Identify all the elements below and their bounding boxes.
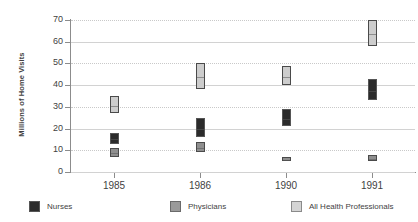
y-axis-tick	[65, 172, 70, 173]
x-axis-tick-label: 1986	[170, 180, 230, 191]
y-axis-tick	[65, 20, 70, 21]
range-marker-midline	[369, 91, 376, 92]
x-axis-tick	[372, 173, 373, 178]
y-axis-tick-label: 50	[37, 58, 63, 67]
plot-area	[71, 20, 415, 172]
x-axis-tick	[114, 173, 115, 178]
y-axis-tick-label: 30	[37, 102, 63, 111]
x-axis-tick-label: 1991	[342, 180, 402, 191]
gridline	[71, 63, 415, 64]
range-marker-midline	[283, 77, 290, 78]
range-marker	[110, 133, 119, 144]
legend-item[interactable]: Nurses	[29, 199, 72, 213]
gridline	[71, 20, 415, 21]
range-marker-midline	[197, 77, 204, 78]
y-axis-tick-label: 20	[37, 124, 63, 133]
range-marker-midline	[283, 119, 290, 120]
gridline	[71, 42, 415, 43]
range-marker	[196, 118, 205, 138]
legend-item[interactable]: All Health Professionals	[291, 199, 393, 213]
x-axis-tick-label: 1990	[256, 180, 316, 191]
legend-item[interactable]: Physicians	[170, 199, 226, 213]
y-axis-tick-label: 0	[37, 167, 63, 176]
y-axis-tick	[65, 85, 70, 86]
legend-swatch-all-health-professionals	[291, 201, 302, 212]
y-axis-tick-label: 40	[37, 80, 63, 89]
gridline	[71, 107, 415, 108]
y-axis-tick	[65, 107, 70, 108]
range-marker-midline	[111, 153, 118, 154]
x-axis-tick	[200, 173, 201, 178]
x-axis-tick	[286, 173, 287, 178]
chart-legend: NursesPhysiciansAll Health Professionals	[0, 197, 418, 219]
y-axis-tick-label: 70	[37, 15, 63, 24]
range-marker	[282, 109, 291, 126]
legend-item-label: All Health Professionals	[309, 202, 393, 211]
legend-swatch-physicians	[170, 201, 181, 212]
y-axis-tick	[65, 42, 70, 43]
range-marker	[368, 20, 377, 46]
gridline	[71, 85, 415, 86]
range-marker	[368, 79, 377, 101]
y-axis-tick	[65, 129, 70, 130]
legend-item-label: Nurses	[47, 202, 72, 211]
y-axis-tick	[65, 150, 70, 151]
range-marker-midline	[369, 34, 376, 35]
y-axis-tick-label: 10	[37, 145, 63, 154]
legend-item-label: Physicians	[188, 202, 226, 211]
gridline	[71, 129, 415, 130]
range-marker	[368, 155, 377, 162]
range-marker-midline	[111, 106, 118, 107]
y-axis-title: Millions of Home Visits	[14, 14, 28, 174]
x-axis-tick-label: 1985	[84, 180, 144, 191]
range-marker	[196, 63, 205, 89]
range-marker	[282, 66, 291, 86]
range-marker	[196, 142, 205, 153]
legend-swatch-nurses	[29, 201, 40, 212]
gridline	[71, 172, 415, 173]
range-marker	[282, 157, 291, 161]
range-marker-midline	[283, 160, 290, 161]
range-marker-midline	[111, 139, 118, 140]
range-marker	[110, 96, 119, 113]
y-axis-tick	[65, 63, 70, 64]
y-axis-title-label: Millions of Home Visits	[17, 52, 26, 136]
gridline	[71, 150, 415, 151]
y-axis-tick-label: 60	[37, 37, 63, 46]
y-axis-tick-labels: 010203040506070	[33, 0, 63, 222]
range-marker-midline	[369, 159, 376, 160]
range-marker-midline	[197, 148, 204, 149]
range-marker-midline	[197, 129, 204, 130]
range-marker	[110, 148, 119, 157]
range-bar-chart: Millions of Home Visits 010203040506070 …	[0, 0, 418, 222]
